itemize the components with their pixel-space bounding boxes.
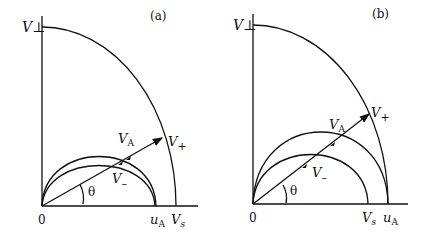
panel-label: (a) bbox=[150, 9, 167, 23]
panel-label: (b) bbox=[372, 7, 389, 21]
origin-label: 0 bbox=[249, 211, 257, 225]
diagram-canvas: (a) V⊥ 0 θ uA Vs V+ VA V– (b) V⊥ 0 θ Vs … bbox=[0, 0, 428, 236]
angle-arc bbox=[80, 184, 84, 204]
svg-text:Vs: Vs bbox=[362, 210, 376, 227]
fast-mode-curve bbox=[42, 27, 176, 206]
y-axis-label: V⊥ bbox=[22, 19, 45, 35]
svg-text:VA: VA bbox=[118, 131, 134, 148]
svg-text:VA: VA bbox=[329, 117, 345, 134]
slow-mode-curve bbox=[42, 166, 155, 207]
wave-vector-arrow bbox=[253, 114, 369, 204]
angle-arc bbox=[283, 185, 287, 203]
wave-vector-arrow bbox=[42, 138, 162, 206]
svg-text:V–: V– bbox=[112, 171, 127, 190]
svg-text:V–: V– bbox=[312, 165, 327, 184]
svg-text:V+: V+ bbox=[168, 134, 187, 153]
svg-text:Vs: Vs bbox=[171, 212, 185, 229]
panel-b: (b) V⊥ 0 θ Vs uA V+ VA V– bbox=[233, 7, 408, 227]
y-axis-label: V⊥ bbox=[233, 17, 256, 33]
svg-text:V+: V+ bbox=[371, 105, 390, 124]
angle-label: θ bbox=[290, 184, 297, 198]
panel-a: (a) V⊥ 0 θ uA Vs V+ VA V– bbox=[22, 9, 198, 229]
origin-label: 0 bbox=[38, 213, 46, 227]
slow-mode-curve bbox=[253, 155, 368, 205]
alfven-curve bbox=[42, 157, 156, 207]
svg-text:uA: uA bbox=[383, 210, 398, 227]
svg-text:uA: uA bbox=[150, 212, 165, 229]
angle-label: θ bbox=[88, 185, 95, 199]
